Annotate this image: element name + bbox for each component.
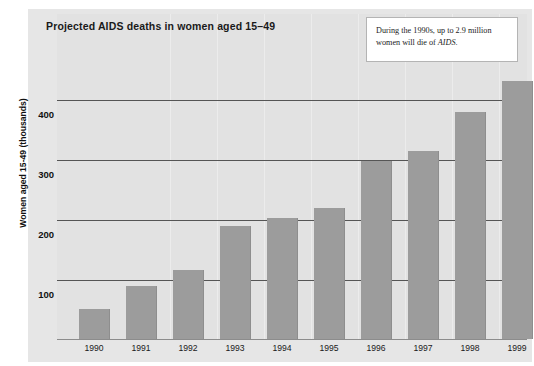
x-tick-label-1994: 1994 (259, 343, 305, 353)
x-tick-label-1998: 1998 (447, 343, 493, 353)
bar-1997 (408, 151, 439, 339)
annotation-callout: During the 1990s, up to 2.9 million wome… (366, 17, 518, 62)
chart-title: Projected AIDS deaths in women aged 15–4… (46, 20, 275, 32)
annotation-line-2-pre: women will die of (376, 38, 438, 47)
y-tick-label-400: 400 (24, 109, 54, 120)
bar-1993 (220, 226, 251, 339)
bar-1991 (126, 286, 157, 339)
y-tick-label-300: 300 (24, 169, 54, 180)
x-tick-label-1993: 1993 (212, 343, 258, 353)
y-tick-label-100: 100 (24, 289, 54, 300)
y-axis-title: Women aged 15-49 (thousands) (18, 88, 28, 238)
bar-1990 (79, 309, 110, 339)
x-tick-label-1991: 1991 (118, 343, 164, 353)
x-tick-label-1996: 1996 (353, 343, 399, 353)
x-tick-label-1997: 1997 (400, 343, 446, 353)
bar-1996 (361, 161, 392, 339)
annotation-line-1: During the 1990s, up to 2.9 million (376, 26, 492, 35)
bar-1995 (314, 208, 345, 339)
bar-1994 (267, 218, 298, 339)
x-tick-label-1990: 1990 (71, 343, 117, 353)
annotation-line-2-post: . (456, 38, 458, 47)
bar-1992 (173, 270, 204, 339)
bar-1998 (455, 112, 486, 339)
chart-root: 400 300 200 100 Women aged 15-49 (thousa… (0, 0, 534, 366)
x-tick-label-1999: 1999 (494, 343, 534, 353)
x-tick-label-1995: 1995 (306, 343, 352, 353)
bar-1999 (502, 81, 533, 339)
y-tick-label-200: 200 (24, 229, 54, 240)
bar-series (57, 14, 527, 340)
x-tick-label-1992: 1992 (165, 343, 211, 353)
annotation-italic-term: AIDS (438, 38, 456, 47)
annotation-text: During the 1990s, up to 2.9 million wome… (376, 25, 509, 49)
x-axis-labels: 1990 1991 1992 1993 1994 1995 1996 1997 … (57, 343, 527, 359)
